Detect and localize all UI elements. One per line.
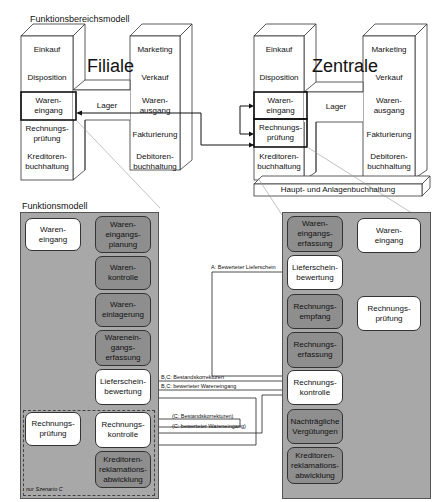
zentrale-warenausgang: Waren- ausgang xyxy=(363,96,415,116)
zentrale-base-bar: Haupt- und Anlagenbuchhaltung xyxy=(254,185,422,195)
filiale-einkauf: Einkauf xyxy=(21,45,73,55)
functional-model-title: Funktionsmodell xyxy=(22,201,88,211)
left-parent-rechnungspruefung[interactable]: Rechnungs- prüfung xyxy=(25,412,81,446)
filiale-marketing: Marketing xyxy=(130,45,180,55)
right-parent-wareneingang[interactable]: Waren- eingang xyxy=(357,218,421,253)
right-child-wareneingangserfassung[interactable]: Waren- eingangs- erfassung xyxy=(287,216,343,252)
zentrale-lager: Lager xyxy=(316,102,356,112)
filiale-debitorenbuchhaltung: Debitoren- buchhaltung xyxy=(130,152,180,172)
left-parent-wareneingang[interactable]: Waren- eingang xyxy=(25,218,81,251)
filiale-lager: Lager xyxy=(88,101,126,111)
filiale-warenausgang: Waren- ausgang xyxy=(130,96,180,116)
flow-label-bc-bestand: B,C: Bestandskorrekturen xyxy=(161,374,224,380)
flow-label-c-wareneingang: (C: bewerteter Wareneingang) xyxy=(172,423,246,429)
right-parent-rechnungspruefung[interactable]: Rechnungs- prüfung xyxy=(357,296,421,331)
zentrale-kreditorenbuchhaltung: Kreditoren- buchhaltung xyxy=(254,152,304,172)
filiale-wareneingang[interactable]: Waren- eingang xyxy=(21,96,76,116)
zentrale-einkauf: Einkauf xyxy=(254,45,304,55)
filiale-disposition: Disposition xyxy=(21,73,73,83)
left-child-wareneinlagerung[interactable]: Waren- einlagerung xyxy=(95,293,151,327)
left-child-wareneingangsplanung[interactable]: Waren- eingangs- planung xyxy=(95,216,151,253)
left-child-rechnungskontrolle[interactable]: Rechnungs- kontrolle xyxy=(95,412,151,448)
zentrale-rechnungspruefung[interactable]: Rechnungs- prüfung xyxy=(254,123,307,143)
flow-label-bc-wareneingang: B,C: bewerteter Wareneingang xyxy=(161,383,236,389)
scenario-c-note: nur Szenario C xyxy=(26,486,63,492)
filiale-rechnungspruefung: Rechnungs- prüfung xyxy=(21,124,73,144)
left-child-lieferscheinbewertung[interactable]: Lieferschein- bewertung xyxy=(95,369,151,405)
filiale-kreditorenbuchhaltung: Kreditoren- buchhaltung xyxy=(21,152,73,172)
right-child-kreditorenreklamationsabwicklung[interactable]: Kreditoren- reklamations- abwicklung xyxy=(287,447,343,484)
left-child-warenkontrolle[interactable]: Waren- kontrolle xyxy=(95,256,151,290)
zentrale-wareneingang[interactable]: Waren- eingang xyxy=(254,96,307,116)
zentrale-disposition: Disposition xyxy=(254,73,304,83)
zentrale-marketing: Marketing xyxy=(363,45,415,55)
zentrale-debitorenbuchhaltung: Debitoren- buchhaltung xyxy=(363,152,415,172)
left-child-kreditorenreklamationsabwicklung[interactable]: Kreditoren- reklamations- abwicklung xyxy=(95,451,151,488)
left-child-wareneingangserfassung[interactable]: Warenein- gangs- erfassung xyxy=(95,330,151,366)
filiale-verkauf: Verkauf xyxy=(130,73,180,83)
right-child-rechnungserfassung[interactable]: Rechnungs- erfassung xyxy=(287,332,343,368)
right-child-rechnungskontrolle[interactable]: Rechnungs- kontrolle xyxy=(287,370,343,405)
filiale-title: Filiale xyxy=(87,56,134,77)
filiale-fakturierung: Fakturierung xyxy=(130,130,180,140)
flow-label-a: A: Bewerteter Lieferschein xyxy=(211,264,276,270)
flow-label-c-bestand: (C: Bestandskorrekturen) xyxy=(172,413,233,419)
right-child-rechnungsempfang[interactable]: Rechnungs- empfang xyxy=(287,294,343,329)
zentrale-verkauf: Verkauf xyxy=(363,73,415,83)
right-child-nachtraegliche-verguetungen[interactable]: Nachträgliche Vergütungen xyxy=(287,409,343,444)
zentrale-fakturierung: Fakturierung xyxy=(363,130,415,140)
right-child-lieferscheinbewertung[interactable]: Lieferschein- bewertung xyxy=(287,255,343,290)
